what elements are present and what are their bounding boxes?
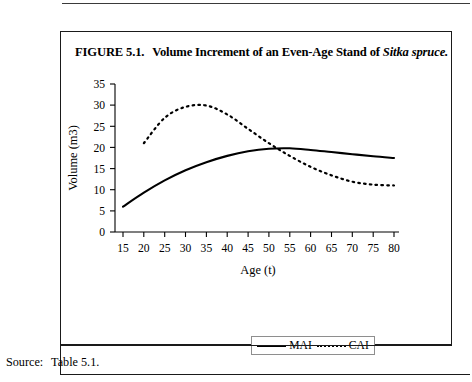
series-line-mai — [123, 148, 394, 206]
svg-text:55: 55 — [284, 242, 296, 255]
y-axis-ticks — [110, 84, 115, 232]
svg-text:80: 80 — [388, 242, 400, 255]
svg-text:40: 40 — [221, 242, 233, 255]
page-bottom-rule — [60, 374, 470, 375]
source-divider — [60, 345, 452, 346]
source-note: Source: Table 5.1. — [6, 355, 99, 370]
source-value: Table 5.1. — [51, 355, 99, 369]
svg-text:30: 30 — [180, 242, 192, 255]
source-label: Source: — [6, 355, 43, 369]
x-axis-title: Age (t) — [240, 263, 275, 277]
y-axis-title: Volume (m3) — [66, 125, 80, 191]
figure-caption-prefix: FIGURE 5.1. — [75, 45, 144, 59]
page-top-rule — [62, 3, 470, 4]
series-line-cai — [144, 105, 394, 186]
svg-text:30: 30 — [93, 99, 105, 112]
svg-text:35: 35 — [201, 242, 213, 255]
svg-text:35: 35 — [93, 78, 105, 91]
x-axis-ticks — [123, 232, 394, 237]
svg-text:20: 20 — [138, 242, 150, 255]
figure-caption-species: Sitka spruce. — [383, 45, 448, 59]
svg-text:5: 5 — [99, 205, 105, 218]
svg-text:0: 0 — [99, 226, 105, 239]
volume-increment-line-chart: 35 30 25 20 15 10 5 0 Volume (m3) — [61, 72, 453, 302]
svg-text:25: 25 — [159, 242, 171, 255]
svg-text:20: 20 — [93, 142, 105, 155]
svg-text:15: 15 — [93, 163, 105, 176]
svg-text:45: 45 — [242, 242, 254, 255]
svg-text:65: 65 — [326, 242, 338, 255]
x-axis-tick-labels: 15 20 25 30 35 40 45 50 55 60 65 70 75 8… — [117, 242, 400, 255]
svg-text:70: 70 — [347, 242, 359, 255]
figure-caption-main: Volume Increment of an Even-Age Stand of — [152, 45, 380, 59]
figure-caption: FIGURE 5.1. Volume Increment of an Even-… — [75, 45, 441, 60]
svg-text:75: 75 — [367, 242, 379, 255]
figure-box: FIGURE 5.1. Volume Increment of an Even-… — [60, 31, 452, 345]
chart-plot-area: 35 30 25 20 15 10 5 0 Volume (m3) — [61, 72, 453, 302]
svg-text:25: 25 — [93, 121, 105, 134]
svg-text:15: 15 — [117, 242, 129, 255]
svg-text:10: 10 — [93, 184, 105, 197]
y-axis-tick-labels: 35 30 25 20 15 10 5 0 — [93, 78, 105, 239]
svg-text:60: 60 — [305, 242, 317, 255]
svg-text:50: 50 — [263, 242, 275, 255]
